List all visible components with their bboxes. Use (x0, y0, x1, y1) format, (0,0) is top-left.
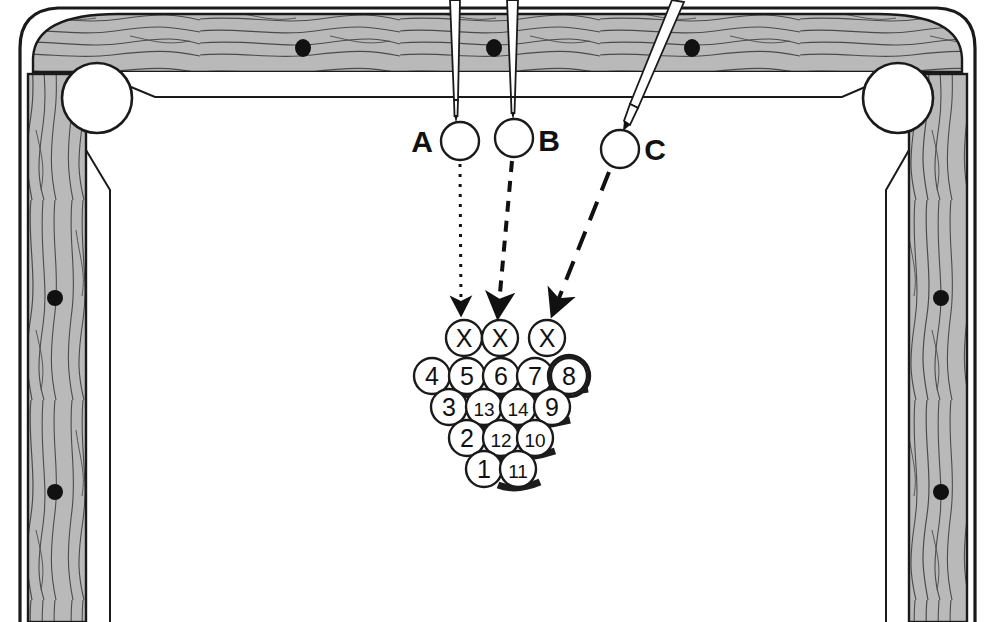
cue-ball-b[interactable] (495, 119, 533, 157)
ball-number-label: 4 (425, 362, 439, 390)
pool-table-diagram: A B C XXX4567831314921210111 (0, 0, 995, 622)
ball-number-label: X (492, 324, 509, 352)
diagram-canvas: A B C XXX4567831314921210111 (0, 0, 995, 622)
ball-number-label: X (539, 324, 556, 352)
ball-number-label: 1 (477, 455, 491, 483)
rail-spot-top-2 (486, 39, 502, 57)
cue-label-b: B (538, 124, 560, 157)
ball-number-label: 11 (508, 461, 528, 482)
rail-spot-right-1 (933, 290, 949, 306)
table-outer-frame (20, 8, 975, 622)
trajectory-a (460, 164, 461, 305)
ball-number-label: 7 (528, 362, 542, 390)
left-rail (28, 74, 86, 622)
ball-number-label: 3 (442, 393, 456, 421)
ball-number-label: 14 (507, 399, 529, 420)
ball-number-label: X (456, 324, 473, 352)
ball-number-label: 8 (562, 362, 576, 390)
right-rail (909, 74, 967, 622)
ball-number-label: 13 (473, 399, 494, 420)
ball-number-label: 9 (545, 393, 559, 421)
rack-ball-x-0-2[interactable]: X (529, 320, 565, 356)
cue-stick-b (507, 0, 518, 120)
cue-ball-a[interactable] (441, 122, 479, 160)
pocket-top-right (863, 63, 933, 133)
trajectory-c (557, 172, 609, 303)
rail-spot-right-2 (933, 484, 949, 500)
ball-number-label: 5 (460, 362, 474, 390)
cue-label-a: A (411, 125, 433, 158)
ball-number-label: 2 (460, 424, 474, 452)
rack-ball-1-4-0[interactable]: 1 (466, 451, 502, 487)
ball-number-label: 12 (490, 430, 511, 451)
rack-ball-11-4-1[interactable]: 11 (500, 451, 536, 487)
rail-spot-top-1 (295, 39, 311, 57)
rail-spot-left-2 (47, 484, 63, 500)
trajectory-b (499, 161, 512, 304)
cue-label-c: C (644, 133, 666, 166)
pocket-top-left (62, 63, 132, 133)
ball-number-label: 10 (524, 430, 545, 451)
rack-ball-x-0-1[interactable]: X (482, 320, 518, 356)
cue-ball-c[interactable] (601, 130, 639, 168)
ball-rack: XXX4567831314921210111 (414, 320, 590, 487)
rail-spot-top-3 (684, 39, 700, 57)
rack-ball-x-0-0[interactable]: X (446, 320, 482, 356)
rail-spot-left-1 (47, 290, 63, 306)
ball-number-label: 6 (494, 362, 508, 390)
